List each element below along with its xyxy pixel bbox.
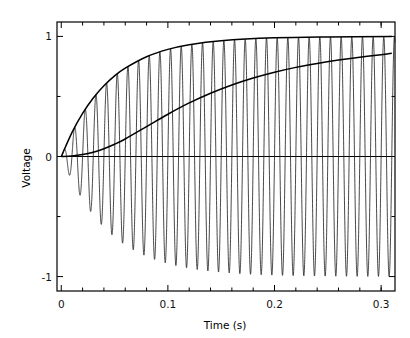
x-tick-label: 0.2 — [266, 298, 283, 310]
chart-canvas — [0, 0, 410, 338]
x-tick-label: 0.3 — [373, 298, 390, 310]
y-tick-label: -1 — [30, 271, 52, 283]
y-tick-label: 0 — [30, 151, 52, 163]
x-axis-title: Time (s) — [204, 319, 247, 331]
x-tick-label: 0 — [58, 298, 65, 310]
y-axis-title: Voltage — [20, 148, 32, 187]
y-tick-label: 1 — [30, 30, 52, 42]
x-tick-label: 0.1 — [160, 298, 177, 310]
figure: 00.10.20.3 -101 Time (s) Voltage — [0, 0, 410, 338]
